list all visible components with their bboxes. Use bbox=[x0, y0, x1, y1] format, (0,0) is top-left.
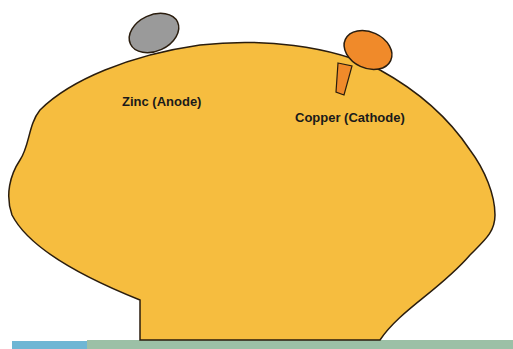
bottom-bar-blue bbox=[12, 341, 87, 349]
lemon-body bbox=[9, 42, 495, 340]
anode-label: Zinc (Anode) bbox=[122, 94, 201, 109]
bottom-bar-green bbox=[87, 340, 513, 349]
cathode-label: Copper (Cathode) bbox=[295, 110, 405, 125]
lemon-battery-diagram: Zinc (Anode) Copper (Cathode) bbox=[0, 0, 513, 349]
